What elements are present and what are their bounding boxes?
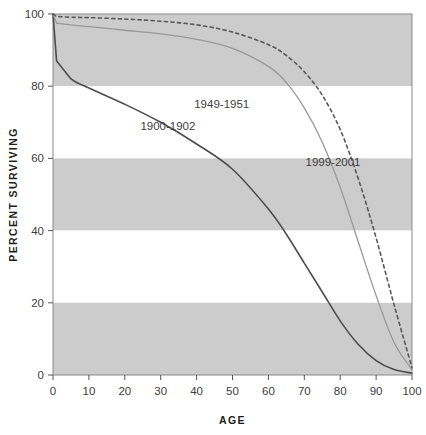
- series-label-1900-1902: 1900-1902: [140, 120, 195, 132]
- y-axis-title: PERCENT SURVIVING: [7, 127, 19, 261]
- y-axis-ticks: [48, 14, 53, 375]
- y-tick-label: 40: [31, 225, 44, 237]
- y-tick-label: 80: [31, 80, 44, 92]
- y-tick-label: 100: [25, 8, 44, 20]
- survival-curve-figure: 020406080100 0102030405060708090100 1949…: [0, 0, 426, 435]
- plot-background-bands: [53, 14, 412, 375]
- x-tick-label: 30: [154, 385, 167, 397]
- x-axis-title: AGE: [219, 414, 246, 426]
- x-axis-tick-labels: 0102030405060708090100: [50, 385, 422, 397]
- x-tick-label: 0: [50, 385, 56, 397]
- x-tick-label: 100: [402, 385, 421, 397]
- series-label-1949-1951: 1949-1951: [194, 98, 249, 110]
- band-80-100: [53, 14, 412, 86]
- y-axis-tick-labels: 020406080100: [25, 8, 44, 381]
- x-tick-label: 40: [190, 385, 203, 397]
- x-tick-label: 70: [298, 385, 311, 397]
- x-tick-label: 60: [262, 385, 275, 397]
- x-tick-label: 50: [226, 385, 239, 397]
- y-tick-label: 0: [38, 369, 44, 381]
- band-0-20: [53, 303, 412, 375]
- x-axis-ticks: [53, 375, 412, 380]
- x-tick-label: 80: [334, 385, 347, 397]
- x-tick-label: 20: [118, 385, 131, 397]
- y-tick-label: 20: [31, 297, 44, 309]
- percent-surviving-line-chart: 020406080100 0102030405060708090100 1949…: [0, 0, 426, 435]
- y-tick-label: 60: [31, 152, 44, 164]
- series-label-1999-2001: 1999-2001: [306, 156, 361, 168]
- x-tick-label: 10: [83, 385, 96, 397]
- x-tick-label: 90: [370, 385, 383, 397]
